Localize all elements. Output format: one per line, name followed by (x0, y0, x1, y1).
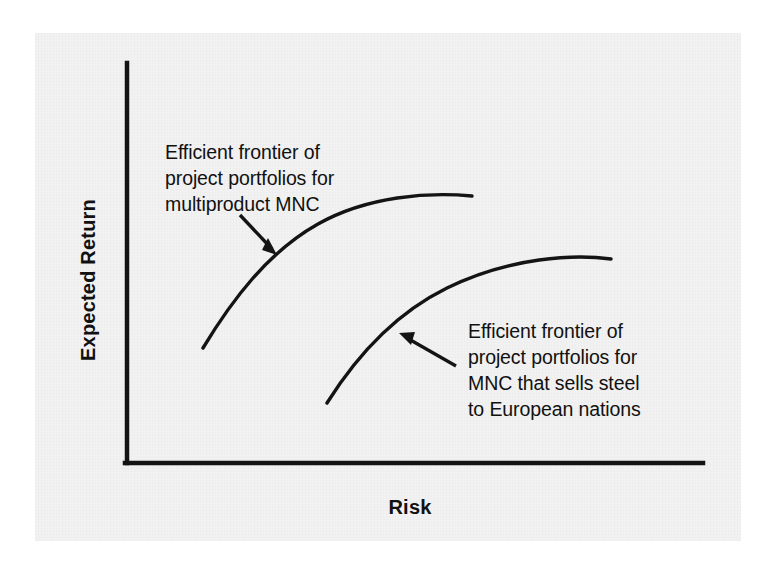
arrow-to-upper-frontier (240, 215, 277, 255)
annotation-multiproduct-mnc: Efficient frontier of project portfolios… (165, 139, 334, 217)
x-axis-label: Risk (388, 496, 431, 519)
arrow-to-lower-frontier (399, 332, 456, 366)
annotation-steel-mnc: Efficient frontier of project portfolios… (468, 318, 641, 422)
efficient-frontier-figure: Efficient frontier of project portfolios… (0, 0, 771, 570)
chart-canvas (0, 0, 771, 570)
y-axis-label: Expected Return (77, 199, 100, 361)
